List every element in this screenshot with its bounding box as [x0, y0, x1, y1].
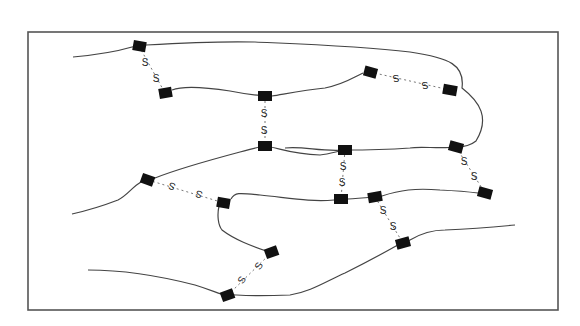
diagram-canvas: S S S S S S S S S S S S S S S S — [0, 0, 580, 326]
chain-curve-top — [73, 42, 483, 151]
s-label: S — [421, 79, 430, 91]
s-label: S — [261, 125, 268, 136]
s-label: S — [390, 221, 397, 232]
junction-node — [367, 191, 383, 203]
s-label: S — [261, 108, 268, 119]
diagram-figure: S S S S S S S S S S S S S S S S — [0, 0, 580, 326]
junction-node — [158, 87, 173, 99]
chain-curve-branch — [218, 206, 266, 251]
s-label: S — [471, 171, 478, 182]
junction-node — [334, 194, 348, 204]
junction-node — [363, 66, 378, 79]
s-link — [456, 147, 485, 193]
s-link — [341, 150, 345, 199]
figure-frame — [28, 32, 558, 310]
s-link — [148, 180, 224, 203]
s-label: S — [461, 156, 468, 167]
s-links — [139, 46, 485, 295]
junction-node — [395, 236, 411, 249]
chain-curve-fourth — [231, 189, 478, 200]
junction-node — [448, 140, 464, 153]
s-label: S — [339, 177, 346, 188]
junction-node — [442, 84, 458, 96]
s-label: S — [340, 161, 347, 172]
junction-node — [258, 91, 272, 101]
s-label: S — [235, 274, 248, 286]
junction-node — [132, 40, 147, 52]
s-link — [375, 197, 403, 243]
s-label: S — [392, 72, 401, 84]
s-label: S — [153, 73, 160, 84]
junction-node — [338, 145, 352, 155]
junction-node — [477, 186, 493, 199]
s-label: S — [380, 205, 387, 216]
chain-curve-bottom — [88, 225, 515, 296]
junction-node — [140, 173, 156, 187]
chain-curves — [72, 42, 515, 296]
s-label: S — [194, 188, 204, 201]
junction-nodes — [132, 40, 493, 302]
s-link — [370, 72, 450, 90]
s-label: S — [142, 57, 149, 68]
chain-curve-third — [72, 146, 345, 214]
s-link — [139, 46, 165, 93]
junction-node — [220, 288, 236, 302]
junction-node — [264, 245, 280, 259]
s-labels: S S S S S S S S S S S S S S S S — [142, 57, 478, 285]
junction-node — [258, 141, 272, 151]
s-link — [228, 252, 272, 295]
